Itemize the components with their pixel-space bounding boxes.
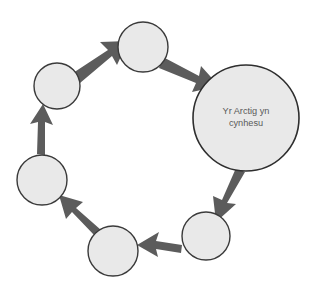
node-large-label-line2: cynhesu: [229, 118, 263, 128]
arrow-bottom-left-to-mid-left: [59, 195, 101, 236]
cycle-diagram: Yr Arctig yn cynhesu: [0, 0, 318, 293]
arrow-large-to-bottom-right: [213, 168, 245, 222]
diagram-canvas: Yr Arctig yn cynhesu: [0, 0, 318, 293]
arrow-mid-left-to-upper-left: [30, 104, 53, 155]
node-mid-left[interactable]: [17, 155, 67, 205]
arrow-bottom-right-to-bottom-left: [137, 232, 182, 257]
node-large-label-line1: Yr Arctig yn: [223, 106, 270, 116]
node-large[interactable]: Yr Arctig yn cynhesu: [193, 65, 299, 171]
node-upper-left[interactable]: [34, 63, 80, 109]
node-top[interactable]: [118, 22, 168, 72]
node-bottom-right[interactable]: [182, 212, 230, 260]
node-bottom-left[interactable]: [88, 226, 138, 276]
